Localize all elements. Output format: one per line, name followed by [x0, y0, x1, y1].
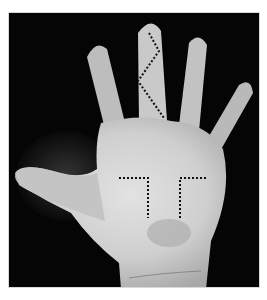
hand-photo: [8, 12, 260, 288]
hand-illustration: [9, 13, 260, 288]
